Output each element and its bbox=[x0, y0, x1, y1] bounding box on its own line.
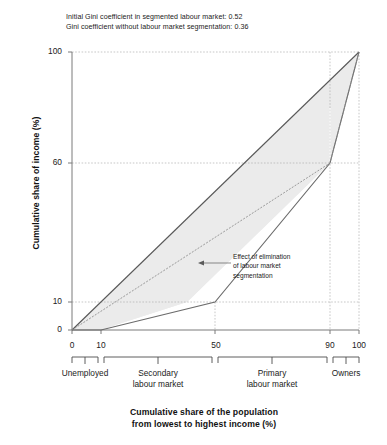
annotation-text: Effect of elimination of labour market s… bbox=[233, 252, 343, 280]
x-axis-title: Cumulative share of the population from … bbox=[44, 406, 364, 430]
group-label-owners: Owners bbox=[291, 368, 387, 379]
perfect-equality-line bbox=[72, 52, 359, 330]
x-axis-title-line-2: from lowest to highest income (%) bbox=[44, 418, 364, 430]
lorenz-curve-figure: Initial Gini coefficient in segmented la… bbox=[0, 0, 387, 445]
group-label-secondary-line-1: Secondary bbox=[103, 368, 213, 379]
group-label-secondary: Secondary labour market bbox=[103, 368, 213, 390]
group-label-primary-line-2: labour market bbox=[217, 379, 327, 390]
x-axis-title-line-1: Cumulative share of the population bbox=[44, 406, 364, 418]
group-label-owners-line-1: Owners bbox=[291, 368, 387, 379]
population-group-brackets bbox=[72, 357, 359, 364]
annotation-line-1: Effect of elimination bbox=[233, 252, 343, 261]
group-label-secondary-line-2: labour market bbox=[103, 379, 213, 390]
annotation-line-2: of labour market bbox=[233, 261, 343, 270]
annotation-line-3: segmentation bbox=[233, 271, 343, 280]
